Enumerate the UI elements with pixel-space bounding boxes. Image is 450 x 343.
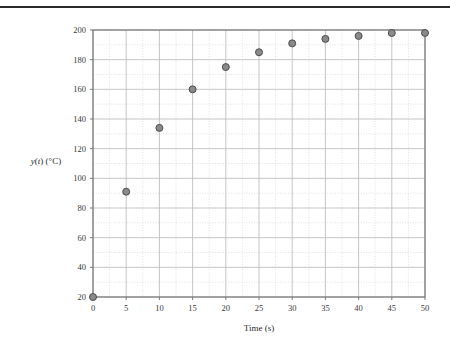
y-axis-tick-label: 180: [73, 55, 86, 65]
x-axis-tick-label: 20: [222, 303, 231, 313]
data-point-marker: [90, 294, 97, 301]
x-axis-tick-label: 40: [354, 303, 363, 313]
x-axis-tick-label: 45: [388, 303, 397, 313]
x-axis-tick-labels: 05101520253035404550: [91, 303, 429, 313]
y-axis-tick-label: 140: [73, 114, 86, 124]
data-point-marker: [422, 29, 429, 36]
x-axis-tick-label: 0: [91, 303, 95, 313]
data-point-marker: [156, 124, 163, 131]
data-point-marker: [289, 40, 296, 47]
x-axis-tick-label: 35: [321, 303, 330, 313]
data-point-marker: [123, 188, 130, 195]
axis-tick-marks: [90, 30, 425, 300]
x-axis-tick-label: 50: [421, 303, 430, 313]
x-axis-title: Time (s): [244, 323, 274, 333]
x-axis-tick-label: 10: [155, 303, 164, 313]
data-point-marker: [256, 49, 263, 56]
y-axis-tick-label: 120: [73, 144, 86, 154]
y-axis-tick-label: 100: [73, 173, 86, 183]
data-point-marker: [388, 29, 395, 36]
y-axis-tick-label: 20: [78, 292, 87, 302]
x-axis-tick-label: 15: [188, 303, 197, 313]
y-axis-tick-label: 80: [78, 203, 87, 213]
y-axis-tick-label: 200: [73, 25, 86, 35]
data-point-marker: [189, 86, 196, 93]
data-point-marker: [322, 35, 329, 42]
x-axis-tick-label: 25: [255, 303, 264, 313]
data-point-marker: [355, 32, 362, 39]
y-axis-tick-label: 160: [73, 84, 86, 94]
y-axis-tick-label: 40: [78, 262, 87, 272]
data-point-marker: [222, 64, 229, 71]
x-axis-tick-label: 30: [288, 303, 297, 313]
y-axis-tick-label: 60: [78, 233, 87, 243]
y-axis-title-units: (°C): [43, 156, 61, 166]
x-axis-tick-label: 5: [124, 303, 128, 313]
scatter-plot: 05101520253035404550 2040608010012014016…: [0, 0, 450, 343]
y-axis-title: y(t) (°C): [30, 156, 61, 166]
y-axis-tick-labels: 20406080100120140160180200: [73, 25, 86, 302]
figure-container: 05101520253035404550 2040608010012014016…: [0, 0, 450, 343]
